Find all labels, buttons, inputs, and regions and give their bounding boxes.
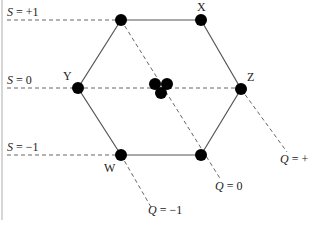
vertex-y-label: Y (63, 70, 72, 82)
vertex-x (195, 14, 207, 26)
q-plus1-dashed-line (241, 89, 287, 152)
vertex-z (235, 83, 247, 95)
q-minus1-dashed-line (121, 155, 151, 207)
hexagon-diagram: S = +1 S = 0 S = −1 X Y Z W Q = 0 Q = + … (0, 0, 313, 226)
q-zero-label: Q = 0 (215, 180, 242, 192)
s-minus1-label: S = −1 (7, 141, 39, 153)
s-plus1-label: S = +1 (7, 6, 39, 18)
s-zero-label: S = 0 (7, 74, 32, 86)
vertex-x-label: X (197, 1, 206, 13)
diagram-graphics (0, 0, 313, 226)
vertex-bottom-right (195, 149, 207, 161)
q-plus1-label: Q = + (280, 153, 308, 165)
q-minus1-label: Q = −1 (148, 204, 182, 216)
vertex-z-label: Z (247, 71, 254, 83)
center-node-3 (155, 87, 167, 99)
vertex-y (72, 82, 84, 94)
vertex-w (115, 149, 127, 161)
vertex-top-left (115, 14, 127, 26)
vertex-w-label: W (104, 162, 115, 174)
